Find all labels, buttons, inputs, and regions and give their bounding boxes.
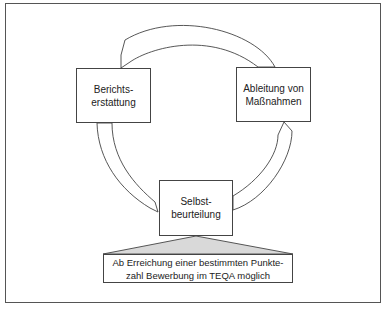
node-label-line: beurteilung — [171, 208, 220, 221]
callout-pointer — [103, 236, 293, 254]
node-berichtserstattung: Berichts- erstattung — [76, 68, 151, 123]
note-line: Ab Erreichung einer bestimmten Punkte- — [104, 257, 292, 270]
callout-note: Ab Erreichung einer bestimmten Punkte- z… — [103, 254, 293, 283]
node-label-line: Berichts- — [91, 83, 135, 96]
note-line: zahl Bewerbung im TEQA möglich — [104, 270, 292, 283]
node-ableitung-von-massnahmen: Ableitung von Maßnahmen — [236, 67, 311, 122]
node-label-line: Maßnahmen — [243, 95, 304, 108]
node-label-line: Ableitung von — [243, 82, 304, 95]
arrow-selbstbeurteilung-to-ableitung — [233, 122, 292, 210]
node-selbstbeurteilung: Selbst- beurteilung — [159, 180, 233, 236]
arrow-berichtserstattung-to-selbstbeurteilung — [97, 123, 158, 212]
arrow-ableitung-to-berichtserstattung — [121, 25, 275, 68]
node-label-line: erstattung — [91, 96, 135, 109]
node-label-line: Selbst- — [171, 195, 220, 208]
